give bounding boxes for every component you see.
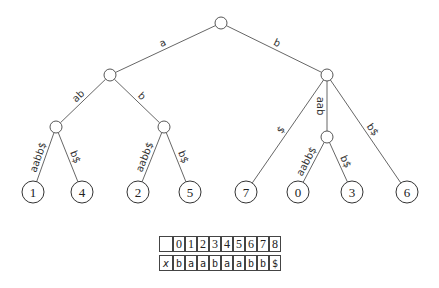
value-cell: b: [245, 255, 257, 271]
leaf-label: 6: [404, 185, 411, 200]
tree-edge: [226, 26, 321, 73]
index-cell: 4: [221, 236, 233, 252]
leaf-label: 0: [295, 185, 302, 200]
value-cell: b: [209, 255, 221, 271]
index-cell: 6: [245, 236, 257, 252]
value-cell: b: [173, 255, 185, 271]
edge-label: b: [272, 36, 283, 49]
suffix-tree-figure: ababbaabb$b$aabb$b$$aabb$aabb$b$14257036…: [0, 0, 439, 288]
index-cell: 5: [233, 236, 245, 252]
value-cell: a: [233, 255, 245, 271]
leaf-label: 1: [30, 185, 37, 200]
tree-edge: [114, 79, 159, 123]
value-row: x b a a b a a b b $: [159, 255, 281, 271]
tree-edge: [115, 26, 215, 73]
leaf-label: 7: [243, 185, 250, 200]
string-array-table: 0 1 2 3 4 5 6 7 8 x b a a b a a b b $: [159, 236, 281, 271]
edge-label: b$: [365, 121, 381, 138]
value-cell: $: [269, 255, 281, 271]
value-cell: a: [185, 255, 197, 271]
index-cell: 1: [185, 236, 197, 252]
edge-label: aab: [315, 97, 326, 116]
internal-node: [50, 121, 62, 133]
index-cell: 7: [257, 236, 269, 252]
edge-label: $: [274, 124, 287, 136]
edge-label: b: [136, 90, 148, 102]
edge-label: aabb$: [294, 145, 318, 178]
leaf-label: 2: [135, 185, 142, 200]
index-row: 0 1 2 3 4 5 6 7 8: [159, 236, 281, 252]
index-cell: 8: [269, 236, 281, 252]
index-cell: 0: [173, 236, 185, 252]
row-label-cell: x: [159, 255, 173, 271]
leaf-label: 4: [79, 185, 86, 200]
value-cell: b: [257, 255, 269, 271]
internal-node: [158, 121, 170, 133]
leaf-label: 5: [187, 185, 194, 200]
edge-label: a: [157, 36, 167, 49]
value-cell: a: [221, 255, 233, 271]
index-header-cell: [159, 236, 173, 252]
leaf-label: 3: [349, 185, 356, 200]
value-cell: a: [197, 255, 209, 271]
internal-node: [104, 69, 116, 81]
internal-node: [321, 131, 333, 143]
edge-label: ab: [70, 88, 87, 105]
tree-edge: [60, 79, 105, 123]
index-cell: 2: [197, 236, 209, 252]
tree-edge: [252, 80, 323, 183]
internal-node: [215, 17, 227, 29]
internal-node: [321, 69, 333, 81]
suffix-tree-diagram: ababbaabb$b$aabb$b$$aabb$aabb$b$14257036: [0, 0, 439, 230]
index-cell: 3: [209, 236, 221, 252]
